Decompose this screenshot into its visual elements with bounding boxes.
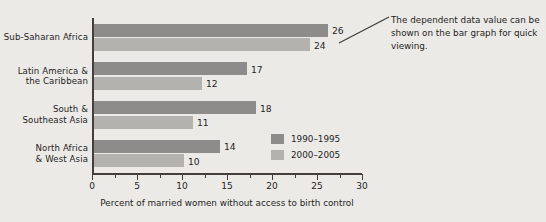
- legend-swatch: [271, 134, 284, 144]
- bar-value-label: 11: [197, 117, 209, 128]
- x-axis-minor-tick: [250, 174, 251, 178]
- category-label-line: South &: [2, 104, 88, 115]
- x-axis-tick-label: 20: [266, 181, 277, 191]
- x-axis-major-tick: [272, 174, 273, 180]
- bar: [94, 24, 328, 37]
- chart-legend: 1990–19952000–2005: [271, 131, 381, 163]
- x-axis-tick-label: 0: [89, 181, 95, 191]
- category-label: North Africa& West Asia: [2, 143, 88, 164]
- category-label-line: & West Asia: [2, 154, 88, 165]
- bar: [94, 140, 220, 153]
- x-axis-tick-label: 15: [221, 181, 232, 191]
- bar-value-label: 12: [206, 78, 218, 89]
- bar-value-label: 24: [314, 40, 326, 51]
- x-axis-major-tick: [317, 174, 318, 180]
- bar: [94, 101, 256, 114]
- x-axis-major-tick: [137, 174, 138, 180]
- x-axis-minor-tick: [160, 174, 161, 178]
- category-label-line: Latin America &: [2, 66, 88, 77]
- category-axis-labels: Sub-Saharan AfricaLatin America &the Car…: [0, 0, 88, 222]
- bar: [94, 38, 310, 51]
- x-axis-minor-tick: [205, 174, 206, 178]
- legend-label: 2000–2005: [291, 150, 340, 160]
- x-axis-tick-label: 10: [176, 181, 187, 191]
- category-label: Latin America &the Caribbean: [2, 66, 88, 87]
- x-axis-minor-tick: [115, 174, 116, 178]
- bar: [94, 62, 247, 75]
- x-axis-minor-tick: [340, 174, 341, 178]
- category-label: Sub-Saharan Africa: [2, 32, 88, 43]
- bar: [94, 154, 184, 167]
- x-axis-title: Percent of married women without access …: [92, 198, 362, 208]
- x-axis-major-tick: [92, 174, 93, 180]
- legend-item: 2000–2005: [271, 147, 381, 163]
- bar-chart-figure: Sub-Saharan AfricaLatin America &the Car…: [0, 0, 546, 222]
- legend-label: 1990–1995: [291, 134, 340, 144]
- legend-swatch: [271, 150, 284, 160]
- bar-value-label: 18: [260, 103, 272, 114]
- x-axis-major-tick: [227, 174, 228, 180]
- x-axis-minor-tick: [295, 174, 296, 178]
- bar: [94, 116, 193, 129]
- x-axis-major-tick: [182, 174, 183, 180]
- category-label-line: North Africa: [2, 143, 88, 154]
- legend-item: 1990–1995: [271, 131, 381, 147]
- category-label-line: Sub-Saharan Africa: [2, 32, 88, 43]
- x-axis-major-tick: [362, 174, 363, 180]
- bar-value-label: 17: [251, 64, 263, 75]
- bar-value-label: 14: [224, 141, 236, 152]
- bar-value-label: 10: [188, 156, 200, 167]
- category-label-line: the Caribbean: [2, 76, 88, 87]
- category-label: South &Southeast Asia: [2, 104, 88, 125]
- x-axis-tick-label: 5: [134, 181, 140, 191]
- category-label-line: Southeast Asia: [2, 115, 88, 126]
- x-axis-tick-label: 30: [356, 181, 367, 191]
- annotation-text: The dependent data value can be shown on…: [391, 14, 541, 54]
- bar: [94, 77, 202, 90]
- bar-value-label: 26: [332, 25, 344, 36]
- x-axis-tick-label: 25: [311, 181, 322, 191]
